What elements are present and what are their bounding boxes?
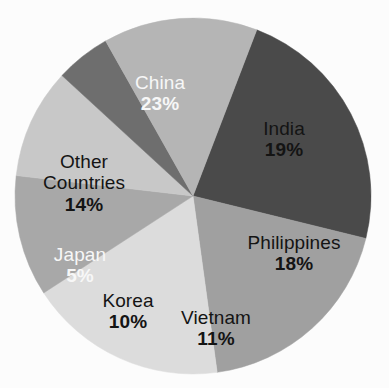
- pie-chart-svg: [0, 0, 389, 388]
- pie-slice-group: [15, 18, 371, 374]
- pie-chart-figure: China23%India19%Philippines18%Vietnam11%…: [0, 0, 389, 388]
